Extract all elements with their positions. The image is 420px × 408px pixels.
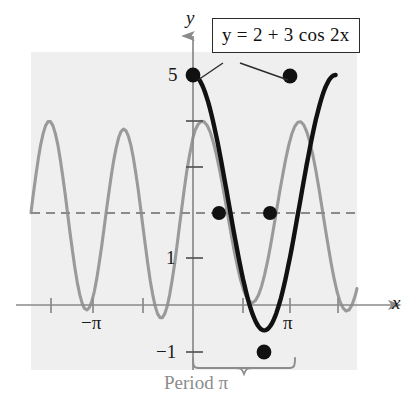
x-axis-label: x	[392, 293, 400, 312]
x-tick-label-pi: π	[283, 313, 293, 332]
plot-background	[31, 52, 357, 370]
x-tick-label-negative-pi: −π	[81, 313, 101, 332]
point-midline-2	[263, 206, 277, 220]
point-minimum	[257, 345, 272, 360]
y-tick-label-1: 1	[166, 248, 176, 267]
y-tick-label-5: 5	[168, 65, 178, 84]
plot-canvas	[0, 0, 420, 408]
y-tick-label-negative-1: −1	[156, 342, 176, 361]
point-max-right	[283, 69, 298, 84]
period-annotation-label: Period π	[164, 373, 228, 392]
equation-callout-box: y = 2 + 3 cos 2x	[212, 18, 360, 53]
cosine-graph-figure: y = 2 + 3 cos 2x y x 5 1 −1 −π π Period …	[0, 0, 420, 408]
y-axis-label: y	[186, 8, 194, 27]
equation-text: y = 2 + 3 cos 2x	[222, 24, 350, 45]
point-midline-1	[212, 206, 226, 220]
